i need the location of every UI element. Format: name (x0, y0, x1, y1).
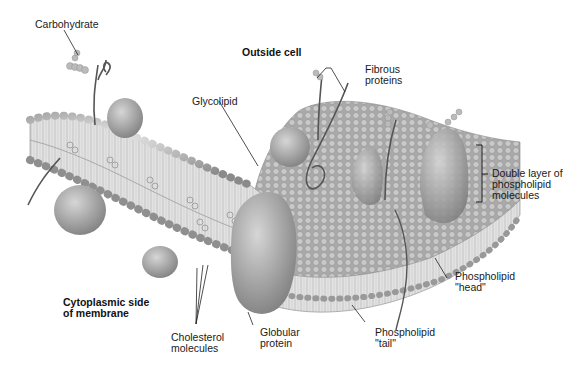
label-outside-cell: Outside cell (242, 47, 302, 58)
membrane-diagram: Carbohydrate Outside cell Fibrous protei… (0, 0, 579, 372)
label-cytoplasmic-side: Cytoplasmic side of membrane (63, 297, 149, 319)
label-fibrous-proteins: Fibrous proteins (365, 64, 402, 86)
label-glycolipid: Glycolipid (192, 96, 238, 107)
label-cholesterol: Cholesterol molecules (171, 332, 224, 354)
label-globular-protein: Globular protein (260, 327, 300, 349)
label-carbohydrate: Carbohydrate (35, 19, 99, 30)
label-double-layer: Double layer of phospholipid molecules (492, 168, 563, 201)
label-phospholipid-head: Phospholipid "head" (455, 271, 515, 293)
label-phospholipid-tail: Phospholipid "tail" (375, 327, 435, 349)
